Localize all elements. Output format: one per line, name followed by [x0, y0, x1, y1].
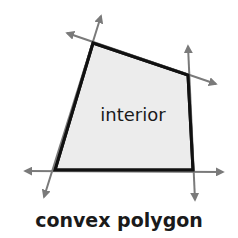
diagram-caption: convex polygon	[0, 209, 238, 231]
convex-polygon-diagram: interior	[0, 0, 238, 238]
interior-label: interior	[100, 104, 166, 125]
